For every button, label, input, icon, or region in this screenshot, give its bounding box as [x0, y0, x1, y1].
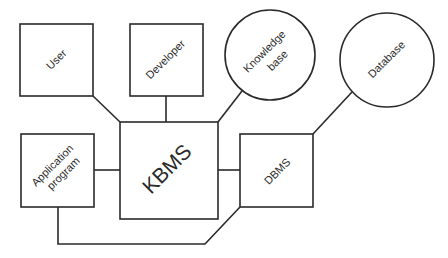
- node-knowledge-base: Knowledge base: [225, 10, 315, 100]
- edge-user-kbms: [93, 96, 120, 122]
- node-developer: Developer: [130, 24, 203, 96]
- node-kbms: KBMS: [120, 122, 218, 219]
- node-application-program: Application program: [21, 134, 94, 207]
- node-user: User: [20, 24, 93, 96]
- edge-knowledge-kbms: [218, 91, 242, 122]
- node-database: Database: [340, 13, 434, 107]
- kbms-architecture-diagram: User Developer Knowledge base Database A…: [0, 0, 448, 258]
- edge-database-dbms: [313, 92, 352, 134]
- node-dbms: DBMS: [240, 134, 313, 207]
